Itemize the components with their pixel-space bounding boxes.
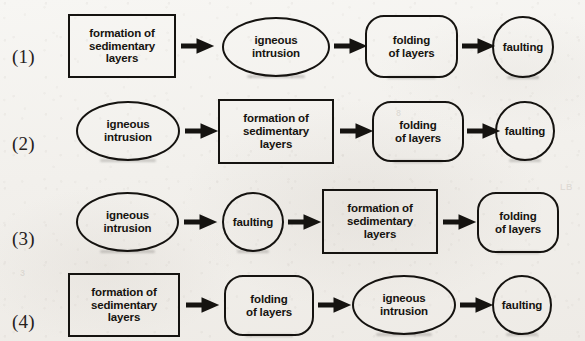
right-arrow-icon [443, 212, 477, 232]
flow-node-folding-of-layers[interactable]: folding of layers [365, 15, 458, 78]
flow-node-label: faulting [231, 216, 275, 229]
flow-node-folding-of-layers[interactable]: folding of layers [477, 192, 559, 253]
flow-node-igneous-intrusion[interactable]: igneous intrusion [222, 17, 330, 77]
flow-node-label: folding of layers [387, 34, 437, 60]
right-arrow-icon [181, 36, 215, 56]
flow-node-label: igneous intrusion [250, 34, 302, 60]
right-arrow-icon [334, 36, 368, 56]
flow-node-label: igneous intrusion [378, 292, 430, 318]
right-arrow-icon [186, 295, 220, 315]
right-arrow-icon [318, 295, 352, 315]
right-arrow-icon [460, 295, 494, 315]
flow-node-label: faulting [501, 41, 545, 54]
options-diagram-sheet: 8LB3 (1)formation of sedimentary layersi… [0, 0, 585, 341]
flow-node-faulting[interactable]: faulting [492, 16, 554, 78]
flow-node-formation-of-sedimentary-layers[interactable]: formation of sedimentary layers [322, 189, 438, 254]
option-number-label: (2) [12, 133, 35, 155]
flow-node-label: folding of layers [244, 293, 294, 319]
bleed-through-mark: LB [560, 182, 573, 192]
flow-node-igneous-intrusion[interactable]: igneous intrusion [76, 192, 179, 252]
flow-node-label: formation of sedimentary layers [89, 286, 159, 325]
flow-node-faulting[interactable]: faulting [495, 101, 555, 161]
flow-node-igneous-intrusion[interactable]: igneous intrusion [76, 101, 180, 161]
flow-node-formation-of-sedimentary-layers[interactable]: formation of sedimentary layers [68, 14, 176, 78]
right-arrow-icon [462, 36, 496, 56]
flow-node-label: faulting [500, 299, 544, 312]
flow-node-folding-of-layers[interactable]: folding of layers [372, 101, 464, 162]
right-arrow-icon [467, 121, 501, 141]
flow-node-formation-of-sedimentary-layers[interactable]: formation of sedimentary layers [218, 99, 334, 164]
right-arrow-icon [184, 212, 218, 232]
option-number-label: (4) [12, 311, 35, 333]
flow-node-label: formation of sedimentary layers [241, 112, 311, 151]
flow-node-label: formation of sedimentary layers [87, 27, 157, 66]
flow-node-label: formation of sedimentary layers [345, 202, 415, 241]
flow-node-folding-of-layers[interactable]: folding of layers [224, 275, 314, 336]
right-arrow-icon [288, 212, 322, 232]
option-number-label: (3) [12, 228, 35, 250]
right-arrow-icon [340, 121, 374, 141]
flow-node-label: igneous intrusion [102, 118, 154, 144]
flow-node-label: igneous intrusion [102, 209, 154, 235]
flow-node-faulting[interactable]: faulting [222, 192, 284, 252]
flow-node-formation-of-sedimentary-layers[interactable]: formation of sedimentary layers [68, 273, 180, 337]
bleed-through-mark: 3 [20, 268, 26, 278]
flow-node-igneous-intrusion[interactable]: igneous intrusion [352, 275, 456, 335]
flow-node-label: faulting [503, 125, 547, 138]
flow-node-faulting[interactable]: faulting [492, 275, 552, 335]
flow-node-label: folding of layers [393, 119, 443, 145]
right-arrow-icon [185, 121, 219, 141]
flow-node-label: folding of layers [493, 210, 543, 236]
option-number-label: (1) [12, 46, 35, 68]
